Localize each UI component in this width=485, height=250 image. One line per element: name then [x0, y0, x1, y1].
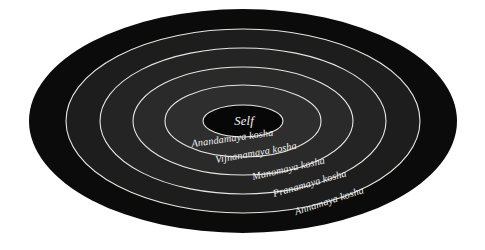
kosha-diagram: Self Anandamaya kosha Vijnanamaya kosha …: [0, 0, 485, 250]
core-label-self: Self: [234, 114, 255, 128]
kosha-svg: Self Anandamaya kosha Vijnanamaya kosha …: [0, 0, 485, 250]
